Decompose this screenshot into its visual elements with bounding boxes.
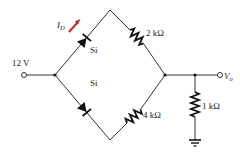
source-voltage-label: 12 V [12,58,30,68]
resistor-r1-label: 2 kΩ [146,28,164,38]
upper-diode-branch: Si ID [55,10,110,75]
output-section: Vo [163,71,233,82]
lower-right-wire-b [140,75,165,110]
current-arrow-icon [69,19,81,32]
input-terminal: 12 V [12,58,57,78]
lower-diode-branch: Si [55,75,110,140]
ground-icon [189,140,201,146]
output-terminal-circle [218,73,223,78]
upper-resistor-branch: 2 kΩ [110,10,165,75]
output-label: Vo [224,71,234,82]
lower-resistor-branch: 4 kΩ [110,75,165,140]
resistor-r2-icon [124,107,143,126]
resistor-r1-icon [127,27,146,46]
input-terminal-circle [22,73,27,78]
upper-right-wire-b [143,43,165,75]
circuit-diagram: 12 V Si ID Si 2 kΩ [0,0,240,164]
upper-right-wire-a [110,10,130,30]
lower-right-wire-a [110,123,127,140]
diode-d2-label: Si [90,78,98,88]
resistor-r3-label: 1 kΩ [202,101,220,111]
resistor-r3-icon [191,92,199,117]
resistor-r2-label: 4 kΩ [143,110,161,120]
shunt-resistor-branch: 1 kΩ [191,75,220,140]
diode-d1-label: Si [90,45,98,55]
current-label: ID [56,20,65,31]
